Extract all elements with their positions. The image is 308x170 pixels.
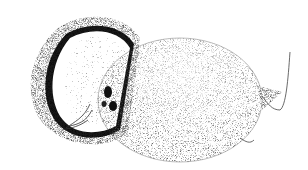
coconut-eye <box>104 86 112 98</box>
coconut-eye <box>102 101 107 107</box>
coconut-illustration <box>0 0 308 170</box>
whole-coconut <box>98 38 290 162</box>
coconut-eye <box>109 101 117 111</box>
